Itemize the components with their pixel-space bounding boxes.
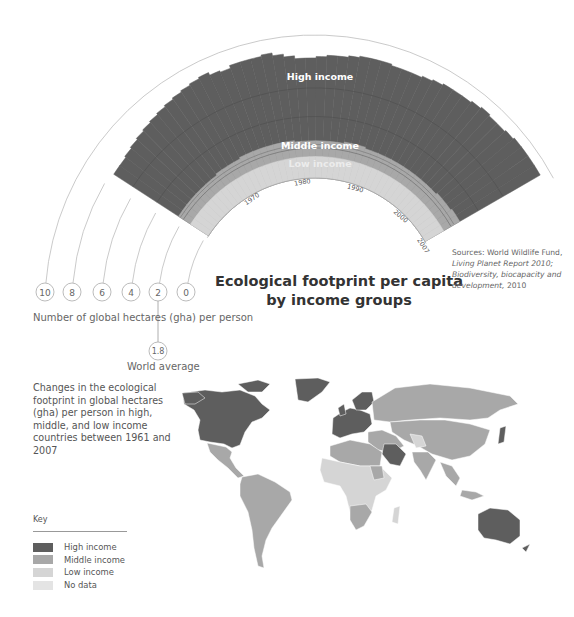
key-swatch (33, 555, 53, 564)
key-item: Middle income (33, 555, 125, 565)
svg-text:2: 2 (155, 288, 161, 298)
key-swatch (33, 568, 53, 577)
year-label-1980: 1980 (294, 177, 312, 188)
key-label: High income (64, 542, 117, 552)
map-region (392, 506, 400, 524)
world-average-label: World average (127, 361, 200, 372)
map-region (240, 474, 292, 568)
svg-text:4: 4 (128, 288, 134, 298)
svg-text:1.8: 1.8 (152, 347, 165, 356)
map-region (207, 443, 244, 478)
map-region (295, 378, 330, 402)
tick-circle-2: 2 (149, 283, 167, 301)
key-label: No data (64, 580, 97, 590)
key-title: Key (33, 515, 48, 524)
key-item: No data (33, 580, 97, 590)
ring-4 (132, 213, 155, 283)
map-region (412, 452, 436, 480)
key-item: High income (33, 542, 117, 552)
map-region (460, 490, 484, 500)
tick-circle-6: 6 (93, 283, 111, 301)
world-map (182, 378, 530, 568)
map-region (238, 380, 270, 392)
map-region (478, 508, 520, 544)
ring-0 (188, 241, 203, 284)
chart-title: Ecological footprint per capita by incom… (214, 272, 464, 310)
key-swatch (33, 581, 53, 590)
tick-circle-0: 0 (177, 283, 195, 301)
map-region (332, 408, 372, 438)
key-swatch (33, 543, 53, 552)
map-region (352, 392, 374, 410)
svg-text:6: 6 (99, 288, 105, 298)
band-label-high: High income (287, 71, 354, 82)
map-region (522, 544, 530, 552)
map-region (350, 504, 372, 530)
key-label: Low income (64, 567, 114, 577)
svg-text:10: 10 (39, 288, 51, 298)
band-label-low: Low income (288, 158, 351, 169)
tick-circle-8: 8 (63, 283, 81, 301)
svg-text:8: 8 (69, 288, 75, 298)
world-average-circle: 1.8 (149, 342, 167, 360)
band-label-middle: Middle income (281, 140, 359, 151)
axis-caption: Number of global hectares (gha) per pers… (33, 312, 253, 323)
map-region (372, 384, 518, 422)
map-region (382, 444, 406, 466)
map-region (498, 426, 506, 444)
tick-circle-10: 10 (36, 283, 54, 301)
svg-text:0: 0 (183, 288, 189, 298)
map-region (440, 462, 460, 486)
ring-8 (73, 184, 105, 284)
key-divider (33, 531, 127, 532)
sources-note: Sources: World Wildlife Fund, Living Pla… (452, 247, 562, 291)
ring-2 (160, 227, 179, 284)
key-item: Low income (33, 567, 114, 577)
tick-circle-4: 4 (122, 283, 140, 301)
ring-6 (103, 199, 130, 284)
key-label: Middle income (64, 555, 125, 565)
chart-description: Changes in the ecological footprint in g… (33, 382, 183, 458)
